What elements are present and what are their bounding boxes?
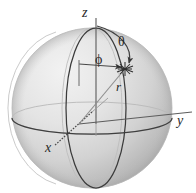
x-axis-label: x bbox=[45, 141, 51, 155]
diagram-canvas bbox=[0, 0, 196, 193]
y-axis-label: y bbox=[177, 114, 183, 128]
theta-angle-label: θ bbox=[118, 35, 125, 49]
z-axis-label: z bbox=[82, 6, 87, 20]
spherical-coordinates-figure: z y x θ ϕ r bbox=[0, 0, 196, 193]
radius-label: r bbox=[116, 80, 121, 93]
phi-angle-label: ϕ bbox=[95, 53, 102, 67]
